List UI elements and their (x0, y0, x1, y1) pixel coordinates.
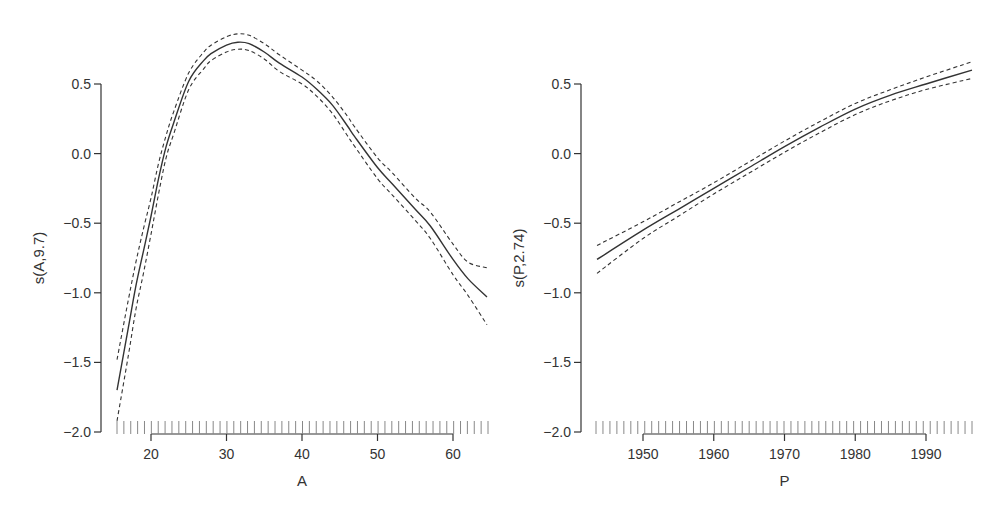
panel-period-smooth: 0.50.0−0.5−1.0−1.5−2.0s(P,2.74)195019601… (510, 62, 972, 489)
x-tick-label: 1990 (910, 446, 941, 462)
x-tick-label: 1950 (627, 446, 658, 462)
chart-canvas: 0.50.0−0.5−1.0−1.5−2.0s(A,9.7)2030405060… (0, 0, 1004, 511)
y-tick-label: −1.0 (63, 285, 91, 301)
y-axis-title: s(P,2.74) (510, 229, 527, 288)
x-tick-label: 20 (143, 446, 159, 462)
y-tick-label: 0.0 (72, 146, 92, 162)
x-axis: 19501960197019801990P (627, 434, 941, 489)
x-tick-label: 1970 (769, 446, 800, 462)
x-tick-label: 50 (370, 446, 386, 462)
y-tick-label: 0.0 (552, 146, 572, 162)
x-tick-label: 1960 (698, 446, 729, 462)
fit-line (117, 42, 487, 390)
x-axis-title: P (779, 472, 789, 489)
panel-age-smooth: 0.50.0−0.5−1.0−1.5−2.0s(A,9.7)2030405060… (30, 34, 488, 489)
y-tick-label: −2.0 (543, 424, 571, 440)
y-tick-label: 0.5 (552, 76, 572, 92)
y-tick-label: −1.5 (63, 354, 91, 370)
confidence-band-line (597, 78, 972, 273)
y-axis-title: s(A,9.7) (30, 232, 47, 285)
confidence-band-line (597, 62, 972, 246)
x-tick-label: 60 (445, 446, 461, 462)
smooth-curves (117, 34, 487, 421)
y-tick-label: −0.5 (63, 215, 91, 231)
y-axis: 0.50.0−0.5−1.0−1.5−2.0s(P,2.74) (510, 76, 581, 440)
y-tick-label: 0.5 (72, 76, 92, 92)
x-axis-title: A (297, 472, 307, 489)
y-axis: 0.50.0−0.5−1.0−1.5−2.0s(A,9.7) (30, 76, 101, 440)
confidence-band-line (117, 49, 487, 421)
y-tick-label: −1.0 (543, 285, 571, 301)
y-tick-label: −2.0 (63, 424, 91, 440)
x-tick-label: 40 (294, 446, 310, 462)
x-tick-label: 1980 (840, 446, 871, 462)
x-tick-label: 30 (219, 446, 235, 462)
rug-marks (117, 421, 488, 434)
y-tick-label: −0.5 (543, 215, 571, 231)
smooth-curves (597, 62, 972, 274)
confidence-band-line (117, 34, 487, 360)
rug-marks (596, 421, 972, 434)
y-tick-label: −1.5 (543, 354, 571, 370)
x-axis: 2030405060A (143, 434, 461, 489)
